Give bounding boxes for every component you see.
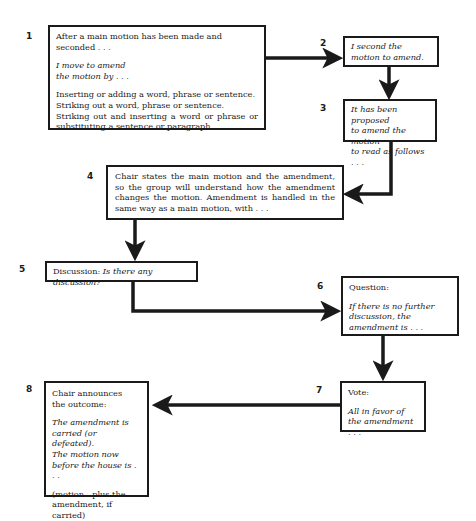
- step-8-label-line1: Chair announces: [52, 388, 141, 399]
- step-7-quote-line1: All in favor of: [348, 406, 418, 417]
- step-2-quote-line1: I second the: [351, 41, 431, 52]
- step-6-box: Question: If there is no further discuss…: [341, 276, 459, 336]
- step-2-quote-line2: motion to amend.: [351, 52, 431, 63]
- step-3-quote-line1: It has been proposed: [351, 104, 429, 125]
- step-8-quote-line1: The amendment is: [52, 417, 141, 428]
- step-number-2: 2: [320, 38, 326, 48]
- step-1-option-substitute: Striking out and inserting a word or phr…: [56, 111, 258, 132]
- step-7-label: Vote:: [348, 387, 418, 398]
- step-8-quote-line3: The motion now: [52, 449, 141, 460]
- step-number-7: 7: [316, 385, 322, 395]
- step-6-label: Question:: [349, 282, 451, 293]
- step-1-quote-line1: I move to amend: [56, 60, 258, 71]
- step-number-8: 8: [26, 384, 32, 394]
- step-5-label: Discussion:: [53, 266, 103, 276]
- step-6-quote: If there is no further discussion, the a…: [349, 301, 451, 333]
- step-7-quote-line2: the amendment . . .: [348, 416, 418, 437]
- step-3-quote-line3: to read as follows . . .: [351, 146, 429, 167]
- step-4-box: Chair states the main motion and the ame…: [106, 165, 344, 220]
- step-8-note-line2: amendment, if carried): [52, 499, 141, 520]
- step-5-box: Discussion: Is there any discussion?: [45, 261, 198, 282]
- step-7-box: Vote: All in favor of the amendment . . …: [340, 381, 426, 432]
- step-number-5: 5: [19, 264, 25, 274]
- step-1-intro: After a main motion has been made and se…: [56, 31, 258, 52]
- step-3-quote-line2: to amend the motion: [351, 125, 429, 146]
- step-1-option-insert: Inserting or adding a word, phrase or se…: [56, 89, 258, 100]
- step-8-note-line1: (motion—plus the: [52, 489, 141, 500]
- step-number-1: 1: [26, 31, 32, 41]
- step-number-3: 3: [320, 103, 326, 113]
- step-1-box: After a main motion has been made and se…: [48, 25, 266, 130]
- step-1-option-strike: Striking out a word, phrase or sentence.: [56, 100, 258, 111]
- step-8-label-line2: the outcome:: [52, 399, 141, 410]
- step-4-text: Chair states the main motion and the ame…: [115, 171, 335, 213]
- step-2-box: I second the motion to amend.: [343, 36, 439, 67]
- step-1-quote-line2: the motion by . . .: [56, 71, 258, 82]
- step-8-quote-line4: before the house is . . .: [52, 460, 141, 481]
- step-3-box: It has been proposed to amend the motion…: [343, 99, 437, 142]
- step-8-quote-line2: carried (or defeated).: [52, 428, 141, 449]
- step-8-box: Chair announces the outcome: The amendme…: [44, 381, 149, 497]
- step-number-4: 4: [87, 171, 93, 181]
- step-number-6: 6: [317, 281, 323, 291]
